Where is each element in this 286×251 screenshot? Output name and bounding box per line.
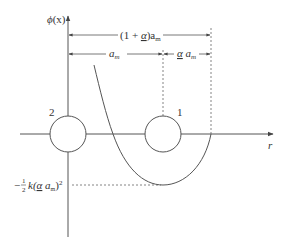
dimension-total-label: (1 + α)am xyxy=(120,29,161,43)
atom-2-label: 2 xyxy=(49,106,55,118)
atom-2-circle xyxy=(50,116,86,152)
svg-text:k(α am)2: k(α am)2 xyxy=(28,179,63,192)
svg-text:−: − xyxy=(14,179,20,191)
x-axis-label: r xyxy=(268,139,273,151)
atom-1-label: 1 xyxy=(177,106,183,118)
svg-text:2: 2 xyxy=(22,186,26,194)
min-value-label: − 1 2 k(α am)2 xyxy=(14,177,63,194)
diagram-canvas: ϕ(x) r (1 + α)am am α am 2 1 − 1 2 k(α a… xyxy=(0,0,286,251)
svg-text:1: 1 xyxy=(22,177,26,185)
dimension-am-label: am xyxy=(109,47,120,61)
dimension-alpha-am-label: α am xyxy=(177,47,196,61)
atom-1-circle xyxy=(145,116,181,152)
y-axis-label: ϕ(x) xyxy=(47,13,66,26)
